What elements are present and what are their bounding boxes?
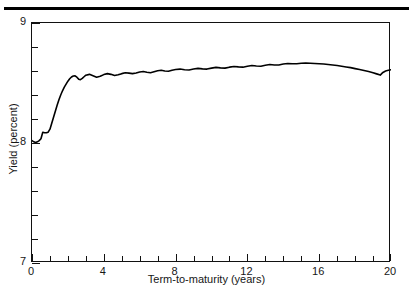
yield-curve-line [32,63,391,142]
y-axis-major-tick [32,143,40,144]
y-axis-major-tick [32,263,40,264]
y-axis-minor-tick [32,119,38,120]
x-axis-minor-tick [86,256,87,261]
y-axis-minor-tick [32,167,38,168]
x-axis-major-tick [176,254,177,261]
x-axis-major-tick [104,254,105,261]
x-axis-minor-tick [158,256,159,261]
x-axis-minor-tick [355,256,356,261]
y-axis-title: Yield (percent) [7,64,19,214]
plot-area [31,22,390,262]
figure-container: 789 048121620 Yield (percent) Term-to-ma… [0,0,413,293]
y-axis-minor-tick [32,95,38,96]
y-axis-minor-tick [32,239,38,240]
x-axis-major-tick [319,254,320,261]
x-axis-minor-tick [212,256,213,261]
x-axis-minor-tick [229,256,230,261]
x-axis-minor-tick [194,256,195,261]
x-axis-minor-tick [122,256,123,261]
x-axis-minor-tick [283,256,284,261]
x-axis-major-tick [247,254,248,261]
y-axis-minor-tick [32,215,38,216]
x-axis-minor-tick [265,256,266,261]
y-axis-major-tick [32,23,40,24]
x-axis-minor-tick [140,256,141,261]
y-axis-minor-tick [32,71,38,72]
x-axis-major-tick [32,254,33,261]
x-axis-minor-tick [337,256,338,261]
yield-curve-plot [32,23,391,263]
x-axis-minor-tick [50,256,51,261]
x-axis-minor-tick [68,256,69,261]
y-axis-minor-tick [32,191,38,192]
y-tick-label: 9 [4,16,26,27]
x-axis-minor-tick [301,256,302,261]
top-divider-rule [4,7,409,10]
y-axis-minor-tick [32,47,38,48]
x-axis-title: Term-to-maturity (years) [0,273,413,285]
x-axis-major-tick [390,254,391,261]
x-axis-minor-tick [373,256,374,261]
